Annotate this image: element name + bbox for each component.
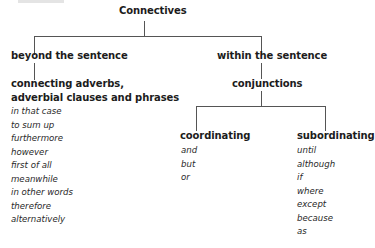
node-within-the-sentence: within the sentence — [217, 50, 327, 61]
list-item: until — [297, 144, 335, 158]
connector-within-to-conjunctions — [261, 63, 262, 79]
node-connecting-adverbs-line1: connecting adverbs, — [11, 78, 124, 89]
coordinating-list: and but or — [181, 144, 197, 185]
list-item: however — [11, 146, 73, 160]
list-item: if — [297, 171, 335, 185]
connector-coordinating — [196, 106, 197, 131]
list-item: meanwhile — [11, 173, 73, 187]
list-item: in other words — [11, 186, 73, 200]
connector-subordinating — [325, 106, 326, 131]
connector-conjunctions-horizontal — [196, 106, 326, 107]
list-item: as — [297, 225, 335, 239]
list-item: although — [297, 158, 335, 172]
connector-root-horizontal — [34, 36, 262, 37]
connector-root-down — [144, 21, 145, 36]
list-item: except — [297, 198, 335, 212]
node-subordinating: subordinating — [297, 130, 375, 141]
root-node-connectives: Connectives — [119, 5, 187, 16]
list-item: therefore — [11, 200, 73, 214]
list-item: to sum up — [11, 119, 73, 133]
node-coordinating: coordinating — [180, 130, 250, 141]
node-connecting-adverbs-line2: adverbial clauses and phrases — [11, 92, 179, 103]
adverbs-list: in that case to sum up furthermore howev… — [11, 105, 73, 227]
list-item: furthermore — [11, 132, 73, 146]
list-item: first of all — [11, 159, 73, 173]
node-beyond-the-sentence: beyond the sentence — [11, 50, 128, 61]
node-conjunctions: conjunctions — [232, 78, 302, 89]
list-item: where — [297, 185, 335, 199]
list-item: alternatively — [11, 213, 73, 227]
list-item: or — [181, 171, 197, 185]
subordinating-list: until although if where except because a… — [297, 144, 335, 239]
cropped-header-text — [18, 0, 64, 3]
list-item: but — [181, 158, 197, 172]
connector-conjunctions-down — [261, 91, 262, 106]
list-item: in that case — [11, 105, 73, 119]
list-item: and — [181, 144, 197, 158]
list-item: because — [297, 212, 335, 226]
